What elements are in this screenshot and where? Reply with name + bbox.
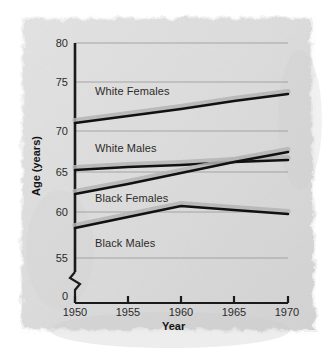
- y-tick-label-60: 60: [42, 206, 68, 218]
- x-axis-title: Year: [162, 320, 185, 332]
- series-label-black-males: Black Males: [95, 237, 155, 249]
- series-label-white-females: White Females: [95, 85, 170, 97]
- series-black-females-shadow: [75, 150, 288, 192]
- x-axis: [75, 296, 288, 303]
- chart-figure: 80 75 70 65 60 55 0 Age (years) 1950 195…: [0, 0, 333, 349]
- y-tick-label-65: 65: [42, 166, 68, 178]
- series-label-black-females: Black Females: [95, 192, 168, 204]
- series-black-males: [75, 204, 288, 228]
- series-white-females-line: [75, 94, 288, 123]
- y-tick-label-75: 75: [42, 76, 68, 88]
- y-tick-label-80: 80: [42, 37, 68, 49]
- x-tick-label-1965: 1965: [212, 306, 256, 318]
- series-label-white-males: White Males: [95, 142, 157, 154]
- x-tick-label-1970: 1970: [265, 306, 309, 318]
- y-tick-label-70: 70: [42, 125, 68, 137]
- x-tick-label-1955: 1955: [106, 306, 150, 318]
- y-axis-title: Age (years): [30, 136, 42, 196]
- y-tick-label-0: 0: [42, 290, 68, 302]
- series-black-females-line: [75, 152, 288, 194]
- x-tick-label-1960: 1960: [159, 306, 203, 318]
- y-tick-label-55: 55: [42, 252, 68, 264]
- x-tick-label-1950: 1950: [53, 306, 97, 318]
